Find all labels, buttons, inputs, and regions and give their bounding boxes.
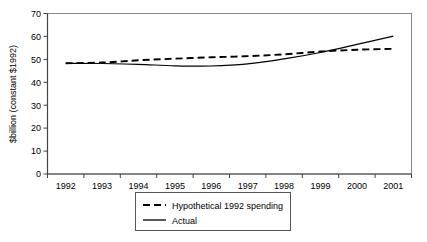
x-tick-label: 1992: [56, 181, 76, 191]
legend: Hypothetical 1992 spending Actual: [136, 193, 291, 231]
y-tick-label: 10: [31, 146, 41, 156]
legend-label-actual: Actual: [172, 216, 197, 226]
y-tick-label: 20: [31, 123, 41, 133]
x-tick-label: 1993: [92, 181, 112, 191]
x-tick-label: 2001: [383, 181, 403, 191]
y-tick-label: 60: [31, 32, 41, 42]
x-tick-label: 2000: [347, 181, 367, 191]
y-tick-label: 70: [31, 9, 41, 19]
x-tick-label: 1998: [274, 181, 294, 191]
y-tick-labels: 70 60 50 40 30 20 10 0: [31, 9, 41, 180]
x-tick-label: 1997: [238, 181, 258, 191]
y-axis-title: $billion (constant $1992): [8, 45, 18, 143]
legend-label-hypothetical: Hypothetical 1992 spending: [172, 201, 283, 211]
x-tick-label: 1994: [128, 181, 148, 191]
legend-box: [136, 193, 291, 231]
chart-figure: 70 60 50 40 30 20 10 0 $billion (constan…: [0, 0, 427, 242]
y-tick-label: 0: [36, 169, 41, 179]
x-tick-label: 1995: [165, 181, 185, 191]
x-tick-marks: [48, 174, 412, 178]
y-tick-label: 40: [31, 78, 41, 88]
y-tick-label: 30: [31, 101, 41, 111]
x-tick-label: 1996: [201, 181, 221, 191]
x-tick-labels: 1992 1993 1994 1995 1996 1997 1998 1999 …: [56, 181, 404, 191]
plot-frame: [48, 14, 412, 175]
line-chart: 70 60 50 40 30 20 10 0 $billion (constan…: [0, 0, 427, 242]
x-tick-label: 1999: [310, 181, 330, 191]
y-tick-label: 50: [31, 55, 41, 65]
